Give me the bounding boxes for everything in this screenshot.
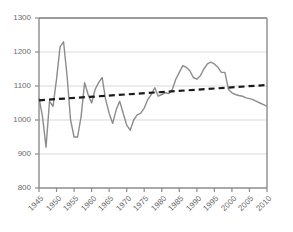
- y-axis-tick-label: 1200: [5, 47, 31, 56]
- data-series-group: [39, 42, 267, 147]
- y-axis-tick-label: 800: [5, 183, 31, 192]
- y-axis-tick-label: 1100: [5, 81, 31, 90]
- axis-frame: [39, 18, 267, 188]
- data-line: [39, 42, 267, 147]
- y-axis-tick-label: 900: [5, 149, 31, 158]
- chart-container: 8009001000110012001300 19451950195519601…: [0, 0, 293, 232]
- y-axis-tick-label: 1000: [5, 115, 31, 124]
- y-axis-tick-label: 1300: [5, 13, 31, 22]
